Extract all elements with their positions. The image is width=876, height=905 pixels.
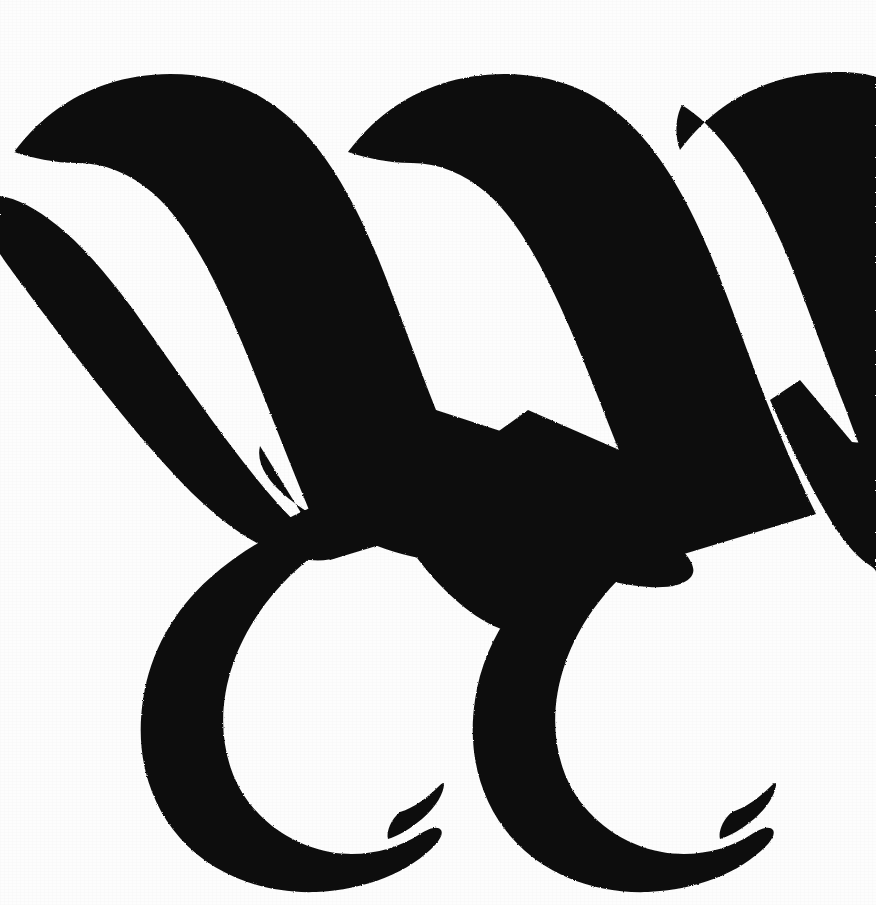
artwork-canvas: Brush calligraphy letterform High-contra…: [0, 0, 876, 905]
calligraphy-svg: [0, 0, 876, 905]
